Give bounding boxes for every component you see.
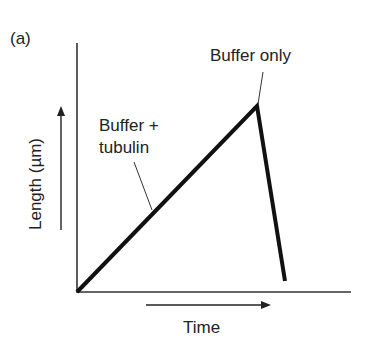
- annotation-growth-line1: Buffer +: [99, 116, 159, 135]
- panel-label: (a): [10, 29, 31, 48]
- y-direction-arrow: [57, 106, 65, 230]
- y-axis-label: Length (µm): [26, 138, 45, 230]
- chart-canvas: (a) Length (µm) Time Buffer + tubulin Bu…: [0, 0, 365, 349]
- shrink-leader-line: [258, 72, 263, 104]
- annotation-shrink: Buffer only: [210, 46, 291, 65]
- growth-leader-line: [134, 162, 152, 210]
- x-axis-label: Time: [183, 318, 220, 337]
- annotation-growth-line2: tubulin: [99, 138, 149, 157]
- x-direction-arrow: [146, 301, 271, 309]
